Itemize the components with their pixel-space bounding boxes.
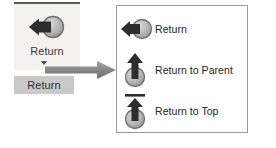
ribbon-button-label: Return xyxy=(14,45,80,58)
return-arrow-icon xyxy=(23,14,69,40)
return-to-parent-up-arrow-icon xyxy=(120,51,154,89)
menu-item-label: Return xyxy=(155,23,187,35)
menu-item-label: Return to Parent xyxy=(155,64,233,76)
dropdown-menu-panel: Return Return to Parent xyxy=(116,5,248,133)
right-arrow-connector-icon xyxy=(45,60,117,80)
menu-item-return-to-parent[interactable]: Return to Parent xyxy=(117,49,247,91)
menu-item-return[interactable]: Return xyxy=(117,8,247,50)
return-left-arrow-icon xyxy=(120,10,154,48)
menu-item-return-to-top[interactable]: Return to Top xyxy=(117,90,247,132)
menu-item-label: Return to Top xyxy=(155,105,219,117)
return-to-top-up-arrow-bar-icon xyxy=(120,92,154,130)
